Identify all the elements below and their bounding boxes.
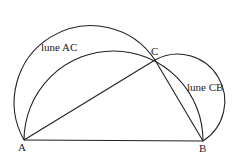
semicircle-ac	[14, 26, 155, 140]
label-point-a: A	[18, 141, 26, 153]
lunes-diagram: lune AC lune CB C A B	[0, 0, 238, 165]
segment-cb	[155, 60, 203, 141]
label-point-b: B	[199, 142, 206, 154]
segment-ac	[24, 60, 155, 140]
label-lune-ac: lune AC	[41, 41, 77, 53]
label-point-c: C	[151, 45, 158, 57]
label-lune-cb: lune CB	[187, 81, 223, 93]
segment-ab	[24, 140, 203, 141]
